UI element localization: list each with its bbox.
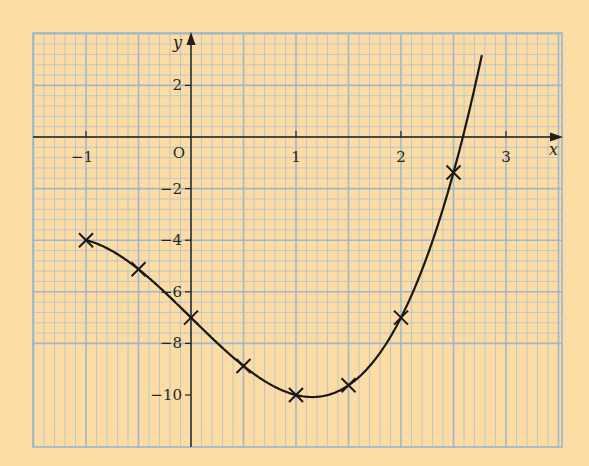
data-point-markers <box>79 165 461 402</box>
cubic-graph: −11232−2−4−6−8−10Oxy <box>0 0 589 466</box>
y-axis-label: y <box>172 33 183 52</box>
y-tick-label: −8 <box>160 334 182 352</box>
y-tick-label: −6 <box>160 283 182 301</box>
y-tick-label: −4 <box>160 231 182 249</box>
x-tick-label: 2 <box>396 148 406 166</box>
x-axis-label: x <box>549 140 558 159</box>
graph-paper-grid <box>33 33 562 447</box>
x-tick-label: 1 <box>291 148 301 166</box>
y-tick-label: −10 <box>150 386 182 404</box>
y-tick-label: 2 <box>172 76 182 94</box>
origin-label: O <box>173 144 185 162</box>
x-tick-label: −1 <box>71 148 93 166</box>
y-tick-label: −2 <box>160 180 182 198</box>
x-tick-label: 3 <box>501 148 511 166</box>
